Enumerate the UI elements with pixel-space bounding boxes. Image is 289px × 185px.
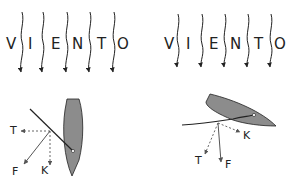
force-f-arrow — [218, 123, 221, 162]
wind-arrow — [201, 14, 203, 67]
mast-point — [252, 113, 255, 116]
force-k-label: K — [243, 129, 251, 142]
force-f-label: F — [225, 158, 231, 171]
wind-arrow — [42, 12, 44, 72]
force-k-label: K — [41, 164, 49, 177]
wind-letter: E — [51, 35, 60, 53]
wind-arrow — [247, 14, 249, 67]
wind-letter: V — [6, 35, 17, 53]
wind-letter: I — [186, 35, 190, 53]
wind-arrow — [89, 12, 91, 72]
wind-letter: E — [209, 35, 218, 53]
wind-arrow — [21, 12, 23, 72]
wind-letter: I — [28, 35, 32, 53]
force-k-arrow — [218, 123, 240, 132]
wind-letter: N — [230, 35, 241, 53]
sailing-forces-diagram: V I E N T O V I E N T O T F K — [0, 0, 289, 185]
wind-arrow — [113, 12, 115, 72]
wind-arrow — [224, 14, 226, 67]
mast-point — [71, 149, 74, 152]
wind-letter: T — [96, 35, 107, 53]
left-boat-diagram: T F K — [9, 99, 83, 178]
wind-letter: O — [117, 35, 129, 53]
wind-arrow — [270, 14, 272, 67]
wind-letter: O — [274, 35, 286, 53]
force-f-label: F — [12, 165, 18, 178]
force-t-label: T — [9, 124, 17, 137]
left-wind-panel: V I E N T O — [6, 12, 129, 72]
wind-arrow — [66, 12, 68, 72]
force-f-arrow — [24, 131, 50, 164]
force-t-label: T — [194, 154, 202, 167]
right-wind-panel: V I E N T O — [164, 14, 286, 67]
right-boat-diagram: K T F — [182, 94, 276, 171]
wind-letter: T — [253, 35, 264, 53]
boat-hull — [64, 99, 83, 176]
wind-letter: N — [72, 35, 83, 53]
wind-arrow — [177, 14, 179, 67]
wind-letter: V — [164, 35, 175, 53]
force-t-arrow — [205, 123, 218, 154]
